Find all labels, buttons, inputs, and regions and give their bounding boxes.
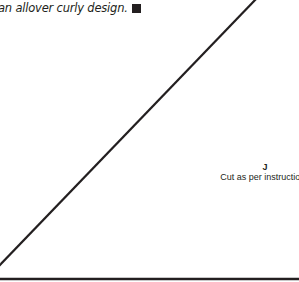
piece-letter: J (205, 162, 299, 172)
pattern-piece-outline (0, 0, 299, 282)
pattern-piece-label: J Cut as per instructions (205, 162, 299, 183)
diagonal-edge (0, 0, 257, 267)
cut-instruction: Cut as per instructions (205, 172, 299, 183)
